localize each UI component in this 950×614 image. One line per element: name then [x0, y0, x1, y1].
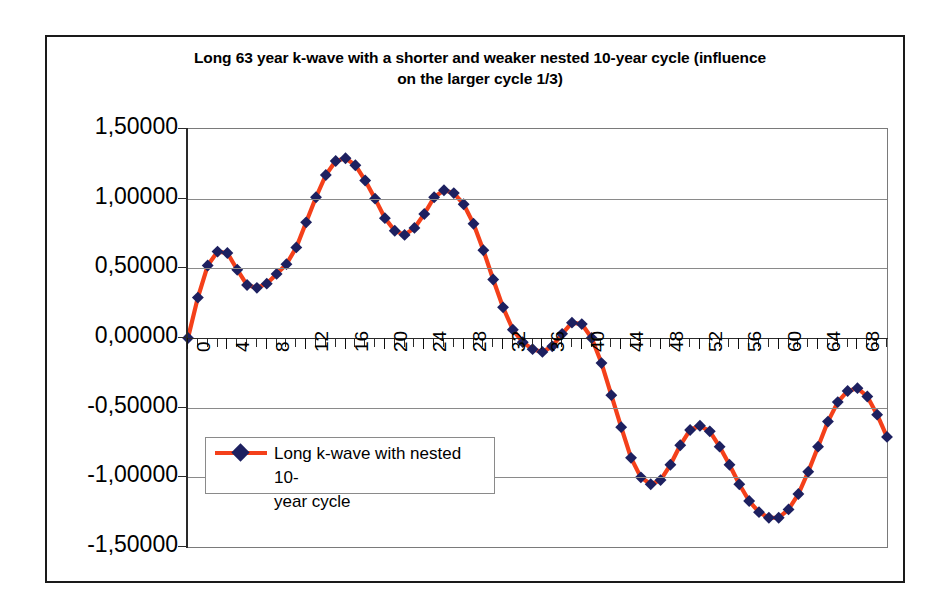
x-axis-tick — [463, 338, 464, 349]
x-axis-tick-label: 28 — [470, 331, 489, 352]
y-axis-tick-label: 0,00000 — [48, 324, 178, 347]
x-axis-tick — [413, 338, 414, 347]
x-axis-tick — [187, 338, 188, 349]
legend-label: Long k-wave with nested 10- year cycle — [274, 442, 488, 514]
x-axis-tick — [886, 338, 887, 347]
x-axis-tick — [541, 338, 542, 349]
x-axis-tick — [610, 338, 611, 347]
x-axis-tick-label: 20 — [391, 331, 410, 352]
x-axis-tick-label: 48 — [667, 331, 686, 352]
y-axis-tick-label: -0,50000 — [48, 394, 178, 417]
y-axis-tick — [178, 198, 187, 199]
y-axis-tick — [178, 546, 187, 547]
x-axis-tick-label: 32 — [509, 331, 528, 352]
x-axis-tick — [266, 338, 267, 349]
x-axis-tick — [689, 338, 690, 347]
x-axis-tick — [384, 338, 385, 349]
gridline-y — [188, 408, 887, 409]
y-axis-tick — [178, 128, 187, 129]
x-axis-tick — [650, 338, 651, 347]
x-axis-tick-label: 40 — [588, 331, 607, 352]
x-axis-tick — [423, 338, 424, 349]
x-axis-tick-label: 60 — [785, 331, 804, 352]
x-axis-tick — [335, 338, 336, 347]
y-axis-tick-label: 1,00000 — [48, 185, 178, 208]
y-axis-labels: 1,500001,000000,500000,00000-0,50000-1,0… — [38, 0, 178, 614]
x-axis-tick — [492, 338, 493, 347]
y-axis-tick-label: -1,50000 — [48, 533, 178, 556]
data-point-marker — [605, 389, 617, 401]
x-axis-tick — [305, 338, 306, 349]
x-axis-tick — [345, 338, 346, 349]
x-axis-tick — [817, 338, 818, 349]
x-axis-tick-label: 16 — [352, 331, 371, 352]
x-axis-tick — [217, 338, 218, 347]
x-axis-tick — [807, 338, 808, 347]
y-axis-tick-label: -1,00000 — [48, 463, 178, 486]
data-point-marker — [802, 466, 814, 478]
legend-label-line-2: year cycle — [274, 490, 488, 514]
x-axis-tick — [620, 338, 621, 349]
chart-title-line-2: on the larger cycle 1/3) — [100, 68, 860, 89]
gridline-y — [188, 268, 887, 269]
x-axis-tick-label: 12 — [312, 331, 331, 352]
x-axis-tick-label: 4 — [233, 341, 252, 352]
legend-label-line-1: Long k-wave with nested 10- — [274, 442, 488, 490]
x-axis-tick-label: 36 — [548, 331, 567, 352]
data-point-marker — [596, 357, 608, 369]
data-point-marker — [812, 441, 824, 453]
chart-legend: Long k-wave with nested 10- year cycle — [205, 437, 495, 494]
x-axis-tick-label: 52 — [706, 331, 725, 352]
x-axis-tick-label: 8 — [273, 341, 292, 352]
data-point-marker — [487, 274, 499, 286]
x-axis-tick — [502, 338, 503, 349]
chart-title-line-1: Long 63 year k-wave with a shorter and w… — [100, 47, 860, 68]
x-axis-tick — [256, 338, 257, 347]
y-axis-tick — [178, 337, 187, 338]
x-axis-line — [187, 338, 888, 339]
x-axis-tick-label: 24 — [430, 331, 449, 352]
x-axis-tick — [295, 338, 296, 347]
x-axis-tick — [847, 338, 848, 347]
x-axis-tick — [532, 338, 533, 347]
y-axis-tick — [178, 407, 187, 408]
y-axis-tick-label: 0,50000 — [48, 254, 178, 277]
data-point-marker — [497, 301, 509, 313]
x-axis-tick-label: 64 — [824, 331, 843, 352]
x-axis-tick — [571, 338, 572, 347]
data-point-marker — [310, 191, 322, 203]
x-axis-tick — [699, 338, 700, 349]
gridline-y — [188, 199, 887, 200]
legend-diamond-marker-icon — [231, 443, 249, 461]
y-axis-tick — [178, 267, 187, 268]
chart-screenshot: Long 63 year k-wave with a shorter and w… — [0, 0, 950, 614]
y-axis-tick-label: 1,50000 — [48, 115, 178, 138]
x-axis-tick-label: 68 — [863, 331, 882, 352]
x-axis-tick — [226, 338, 227, 349]
x-axis-tick — [728, 338, 729, 347]
x-axis-tick — [738, 338, 739, 349]
chart-title: Long 63 year k-wave with a shorter and w… — [100, 47, 860, 89]
y-axis-tick — [178, 476, 187, 477]
x-axis-tick-label: 56 — [745, 331, 764, 352]
x-axis-tick — [778, 338, 779, 349]
x-axis-tick-label: 44 — [627, 331, 646, 352]
x-axis-tick — [581, 338, 582, 349]
x-axis-tick — [374, 338, 375, 347]
data-point-marker — [615, 421, 627, 433]
x-axis-tick — [768, 338, 769, 347]
x-axis-tick — [660, 338, 661, 349]
data-point-marker — [477, 244, 489, 256]
data-point-marker — [192, 292, 204, 304]
x-axis-tick-label: 0 — [194, 341, 213, 352]
x-axis-tick — [856, 338, 857, 349]
data-point-marker — [300, 216, 312, 228]
x-axis-tick — [453, 338, 454, 347]
